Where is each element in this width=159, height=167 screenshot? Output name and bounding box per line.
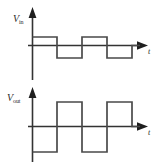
- vin-panel: Vin t: [0, 0, 159, 84]
- vout-axis-label: Vout: [7, 88, 20, 104]
- vout-time-axis-label: t: [148, 129, 150, 137]
- vin-plot-area: [0, 0, 159, 84]
- vin-x-axis: [28, 41, 148, 49]
- vin-axis-label: Vin: [13, 9, 23, 25]
- input-waveform: [33, 37, 141, 58]
- vin-time-axis-label: t: [148, 48, 150, 56]
- vin-y-axis: [29, 7, 37, 80]
- waveform-figure: Vin t Vout t: [0, 0, 159, 167]
- vout-x-axis: [28, 122, 148, 130]
- vout-y-axis: [29, 87, 37, 162]
- vout-plot-area: [0, 84, 159, 167]
- vout-panel: Vout t: [0, 84, 159, 167]
